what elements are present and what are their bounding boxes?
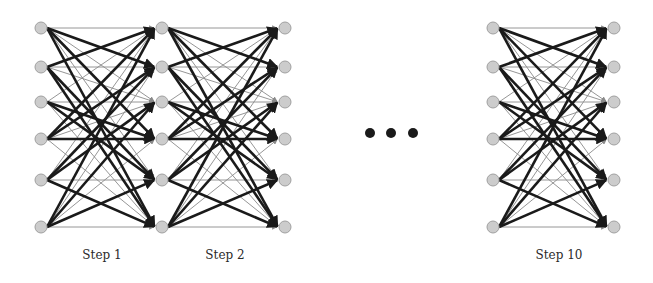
graph-node <box>35 61 47 73</box>
graph-node <box>279 174 291 186</box>
graph-node <box>487 133 499 145</box>
step-label-1: Step 1 <box>82 248 121 262</box>
graph-node <box>608 174 620 186</box>
graph-node <box>156 174 168 186</box>
edge-arrow <box>47 140 154 227</box>
graph-node <box>35 22 47 34</box>
ellipsis-icon <box>365 128 418 138</box>
graph-node <box>279 133 291 145</box>
edge-arrow <box>499 140 606 227</box>
graph-node <box>35 174 47 186</box>
graph-node <box>608 133 620 145</box>
graph-node <box>608 96 620 108</box>
edge-arrow <box>168 140 277 227</box>
graph-node <box>156 22 168 34</box>
graph-node <box>608 22 620 34</box>
graph-node <box>487 96 499 108</box>
graph-node <box>487 22 499 34</box>
graph-node <box>156 133 168 145</box>
graph-node <box>487 174 499 186</box>
graph-node <box>156 96 168 108</box>
graph-node <box>35 96 47 108</box>
graph-node <box>487 61 499 73</box>
edge-arrow <box>47 139 154 226</box>
edges-layer <box>47 28 607 227</box>
graph-node <box>487 221 499 233</box>
ellipsis-dot <box>408 128 418 138</box>
graph-node <box>279 61 291 73</box>
step-label-2: Step 2 <box>205 248 244 262</box>
graph-node <box>608 221 620 233</box>
graph-node <box>156 221 168 233</box>
graph-node <box>279 221 291 233</box>
graph-node <box>608 61 620 73</box>
graph-node <box>279 96 291 108</box>
edge-arrow <box>499 139 606 226</box>
graph-node <box>35 133 47 145</box>
ellipsis-dot <box>386 128 396 138</box>
graph-node <box>279 22 291 34</box>
graph-node <box>35 221 47 233</box>
diagram-canvas <box>0 0 653 283</box>
edge-arrow <box>168 139 277 226</box>
ellipsis-dot <box>365 128 375 138</box>
graph-node <box>156 61 168 73</box>
step-label-10: Step 10 <box>536 248 583 262</box>
